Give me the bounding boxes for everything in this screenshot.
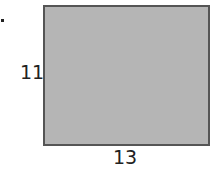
height-label: 11	[20, 63, 42, 82]
width-label: 13	[110, 148, 140, 167]
bullet-marker	[1, 19, 4, 22]
rectangle-shape	[43, 5, 210, 146]
